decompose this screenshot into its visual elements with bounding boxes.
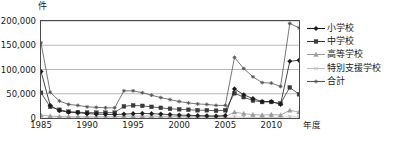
- series-4: [41, 22, 299, 110]
- x-axis-tick-label: 2010: [256, 121, 286, 130]
- x-axis-tick-label: 1990: [72, 121, 102, 130]
- legend-label: 小学校: [327, 23, 354, 34]
- legend-marker-icon: [306, 48, 326, 61]
- legend-item-0[interactable]: 小学校: [306, 22, 393, 35]
- legend-label: 高等学校: [327, 49, 363, 60]
- legend-item-1[interactable]: 中学校: [306, 35, 393, 48]
- y-axis-tick-label: 50,000: [0, 90, 36, 98]
- x-axis-tick-label: 1985: [26, 121, 56, 130]
- x-axis-title: 年度: [303, 121, 321, 130]
- chart-legend: 小学校中学校高等学校特別支援学校合計: [306, 22, 393, 88]
- y-axis-unit-label: 件: [38, 1, 47, 11]
- plot-area: [40, 20, 300, 119]
- y-axis-tick-label: 200,000: [0, 17, 36, 25]
- legend-label: 特別支援学校: [327, 63, 381, 74]
- y-axis-tick-label: 100,000: [0, 66, 36, 74]
- legend-item-3[interactable]: 特別支援学校: [306, 62, 393, 75]
- legend-label: 中学校: [327, 36, 354, 47]
- legend-label: 合計: [327, 76, 345, 87]
- x-axis-tick-label: 2000: [164, 121, 194, 130]
- x-axis-tick-label: 2005: [210, 121, 240, 130]
- chart-container: 件 050,000100,000150,000200,000 198519901…: [0, 0, 393, 144]
- legend-marker-icon: [306, 75, 326, 88]
- legend-marker-icon: [306, 35, 326, 48]
- y-axis-tick-label: 150,000: [0, 41, 36, 49]
- legend-marker-icon: [306, 22, 326, 35]
- x-axis-tick-label: 1995: [118, 121, 148, 130]
- legend-marker-icon: [306, 62, 326, 75]
- legend-item-2[interactable]: 高等学校: [306, 48, 393, 61]
- legend-item-4[interactable]: 合計: [306, 75, 393, 88]
